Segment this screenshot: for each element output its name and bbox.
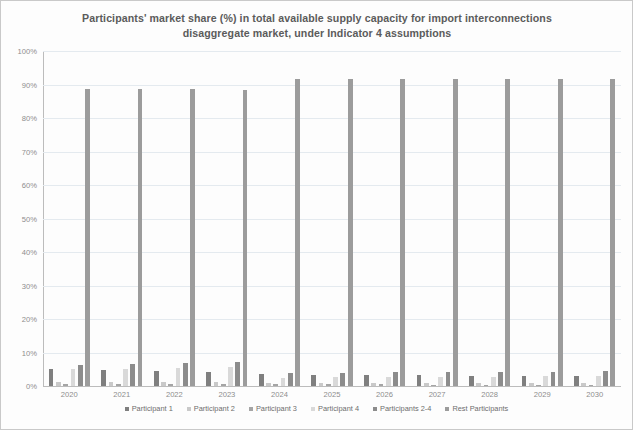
x-tick-label: 2028: [481, 390, 498, 399]
bar: [438, 377, 443, 386]
bar: [123, 369, 128, 386]
legend-label: Participant 3: [256, 404, 297, 413]
bar: [281, 378, 286, 386]
bar: [469, 376, 474, 386]
bar: [78, 365, 83, 386]
legend-item[interactable]: Participant 1: [125, 404, 173, 413]
y-tick-label: 20%: [5, 315, 37, 324]
legend-item[interactable]: Rest Participants: [445, 404, 508, 413]
bar: [109, 382, 114, 386]
bar: [206, 372, 211, 386]
x-tick-label: 2020: [61, 390, 78, 399]
bar: [348, 79, 353, 386]
y-tick-label: 50%: [5, 214, 37, 223]
bar: [558, 79, 563, 386]
legend-swatch-icon: [125, 407, 129, 411]
bar: [610, 79, 615, 386]
bar-group-2025: [306, 51, 359, 386]
chart-title-line-2: disaggregate market, under Indicator 4 a…: [57, 26, 577, 41]
bar: [446, 372, 451, 386]
bar: [101, 370, 106, 386]
bar: [589, 385, 594, 386]
bar: [295, 79, 300, 386]
bar: [63, 384, 68, 386]
legend-item[interactable]: Participant 2: [187, 404, 235, 413]
chart-title: Participants' market share (%) in total …: [57, 11, 577, 41]
legend-item[interactable]: Participant 3: [249, 404, 297, 413]
legend-swatch-icon: [311, 407, 315, 411]
legend-label: Participant 4: [318, 404, 359, 413]
bar: [214, 382, 219, 386]
y-tick-label: 80%: [5, 114, 37, 123]
legend-item[interactable]: Participant 4: [311, 404, 359, 413]
bar: [491, 377, 496, 386]
bar: [176, 368, 181, 386]
bar: [574, 376, 579, 386]
bar: [228, 367, 233, 386]
x-tick-label: 2030: [586, 390, 603, 399]
bar: [371, 383, 376, 386]
bar: [161, 382, 166, 386]
y-tick-label: 0%: [5, 382, 37, 391]
x-tick-label: 2026: [376, 390, 393, 399]
bar-group-2022: [148, 51, 201, 386]
y-tick-label: 30%: [5, 281, 37, 290]
bar: [400, 79, 405, 386]
bar: [138, 89, 143, 386]
chart-title-line-1: Participants' market share (%) in total …: [57, 11, 577, 26]
bar: [266, 383, 271, 386]
bar: [529, 383, 534, 386]
bar: [424, 383, 429, 386]
bar: [130, 364, 135, 386]
bar: [154, 371, 159, 386]
bar: [596, 376, 601, 386]
bar: [235, 362, 240, 386]
bar: [326, 384, 331, 386]
y-tick-label: 90%: [5, 80, 37, 89]
bar: [49, 369, 54, 386]
bar: [484, 385, 489, 386]
bar: [243, 90, 248, 386]
bar-group-2020: [43, 51, 96, 386]
bar: [183, 363, 188, 386]
bar: [536, 385, 541, 386]
bar: [505, 79, 510, 386]
bar: [288, 373, 293, 386]
plot-area: [43, 51, 621, 386]
bar: [551, 372, 556, 386]
bar: [340, 373, 345, 386]
bar: [379, 384, 384, 386]
legend-swatch-icon: [373, 407, 377, 411]
bar-group-2029: [516, 51, 569, 386]
x-tick-label: 2024: [271, 390, 288, 399]
bar-group-2028: [463, 51, 516, 386]
bar: [603, 371, 608, 386]
y-tick-label: 70%: [5, 147, 37, 156]
y-tick-label: 100%: [5, 47, 37, 56]
bar-group-2023: [201, 51, 254, 386]
x-tick-label: 2021: [113, 390, 130, 399]
bar: [364, 375, 369, 386]
bar: [273, 384, 278, 386]
bar: [259, 374, 264, 386]
legend-label: Rest Participants: [452, 404, 508, 413]
y-tick-label: 40%: [5, 248, 37, 257]
x-tick-label: 2029: [534, 390, 551, 399]
x-tick-label: 2027: [429, 390, 446, 399]
legend-swatch-icon: [249, 407, 253, 411]
bar: [168, 384, 173, 386]
bar: [71, 369, 76, 386]
bar-group-2030: [568, 51, 621, 386]
bar: [581, 383, 586, 386]
legend-swatch-icon: [187, 407, 191, 411]
bar-group-2024: [253, 51, 306, 386]
bar: [333, 377, 338, 386]
legend-swatch-icon: [445, 407, 449, 411]
bar: [431, 385, 436, 386]
y-tick-label: 60%: [5, 181, 37, 190]
bar: [116, 384, 121, 386]
legend-item[interactable]: Participants 2-4: [373, 404, 431, 413]
bar: [476, 383, 481, 386]
bar-group-2026: [358, 51, 411, 386]
legend-label: Participant 1: [132, 404, 173, 413]
